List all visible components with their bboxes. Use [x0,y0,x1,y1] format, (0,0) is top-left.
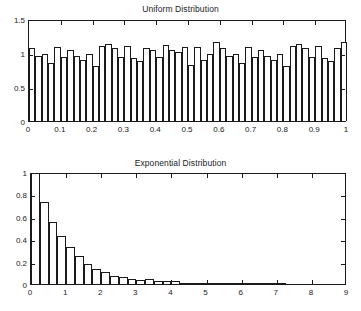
x-tick-mark [315,117,316,121]
uniform-chart-title: Uniform Distribution [0,4,361,14]
y-tick-label: 0.2 [16,258,27,267]
histogram-bar [40,202,49,284]
x-tick-mark [171,280,172,284]
x-tick-label: 0.6 [213,125,224,134]
y-tick-mark-right [341,89,345,90]
histogram-bar [250,283,259,284]
histogram-bar [171,281,180,284]
y-tick-mark-right [341,55,345,56]
histogram-bar [180,283,189,284]
x-tick-mark-top [252,21,253,25]
y-tick-mark [29,55,33,56]
x-tick-mark-top [277,174,278,178]
x-tick-mark [277,280,278,284]
x-tick-mark [101,280,102,284]
histogram-bar [75,256,84,284]
histogram-bar [136,280,145,284]
histogram-bar [163,281,172,284]
x-tick-label: 4 [168,288,172,297]
histogram-bar [110,276,119,284]
x-tick-label: 0.3 [118,125,129,134]
x-tick-mark [66,280,67,284]
histogram-bar [66,247,75,284]
x-tick-label: 0.8 [277,125,288,134]
x-tick-mark-top [220,21,221,25]
x-tick-mark [136,280,137,284]
y-tick-label: 1 [21,50,25,59]
x-tick-label: 0.5 [181,125,192,134]
histogram-bar [101,272,110,284]
x-tick-mark-top [312,174,313,178]
x-tick-mark [242,280,243,284]
histogram-bar [259,283,268,284]
x-tick-mark-top [171,174,172,178]
x-tick-mark [124,117,125,121]
x-tick-mark-top [66,174,67,178]
y-tick-mark-right [341,196,345,197]
y-tick-mark-right [341,219,345,220]
y-tick-label: 1 [23,169,27,178]
y-tick-label: 0 [23,281,27,290]
uniform-plot-area [28,20,346,122]
x-tick-label: 3 [133,288,137,297]
histogram-bar [268,283,277,284]
exponential-plot-area [30,173,346,285]
subplot-uniform: Uniform Distribution 00.10.20.30.40.50.6… [0,0,361,155]
histogram-bar [145,279,154,284]
x-tick-mark [93,117,94,121]
histogram-bar [119,277,128,285]
histogram-bar [207,283,216,284]
exponential-chart-title: Exponential Distribution [0,158,361,168]
subplot-exponential: Exponential Distribution 0123456789 00.2… [0,155,361,311]
histogram-bar [233,283,242,284]
x-tick-mark-top [124,21,125,25]
x-tick-mark-top [283,21,284,25]
uniform-bar-series [29,21,345,121]
x-tick-label: 0.9 [309,125,320,134]
y-tick-mark [31,264,35,265]
histogram-bar [92,269,101,284]
y-tick-mark [31,196,35,197]
x-tick-label: 0.2 [86,125,97,134]
x-tick-mark-top [93,21,94,25]
x-tick-label: 5 [203,288,207,297]
y-tick-mark-right [341,264,345,265]
x-tick-mark [252,117,253,121]
histogram-bar [84,264,93,284]
histogram-bar [49,222,58,284]
x-tick-label: 0 [28,288,32,297]
x-tick-mark [220,117,221,121]
x-tick-label: 0.1 [54,125,65,134]
x-tick-mark-top [188,21,189,25]
x-tick-label: 0.4 [150,125,161,134]
x-tick-mark-top [61,21,62,25]
y-tick-mark-right [341,241,345,242]
x-tick-mark [207,280,208,284]
y-tick-label: 0.4 [16,236,27,245]
histogram-bar [277,283,286,284]
histogram-bar [215,283,224,284]
y-tick-label: 0 [21,118,25,127]
x-tick-label: 1 [344,125,348,134]
x-tick-label: 2 [98,288,102,297]
x-tick-mark-top [156,21,157,25]
histogram-bar [198,283,207,284]
x-tick-mark-top [207,174,208,178]
histogram-bar [57,236,66,284]
histogram-bar [128,279,137,284]
histogram-bar [242,283,251,284]
x-tick-label: 0.7 [245,125,256,134]
exponential-bar-series [31,174,345,284]
x-tick-mark-top [242,174,243,178]
histogram-bar [189,283,198,284]
y-tick-label: 0.6 [16,213,27,222]
x-tick-mark [61,117,62,121]
matlab-figure: Uniform Distribution 00.10.20.30.40.50.6… [0,0,361,311]
histogram-bar [31,173,40,284]
x-tick-mark-top [136,174,137,178]
x-tick-label: 0 [26,125,30,134]
y-tick-mark [29,89,33,90]
y-tick-mark [31,241,35,242]
y-tick-mark [31,219,35,220]
histogram-bar [154,281,163,284]
